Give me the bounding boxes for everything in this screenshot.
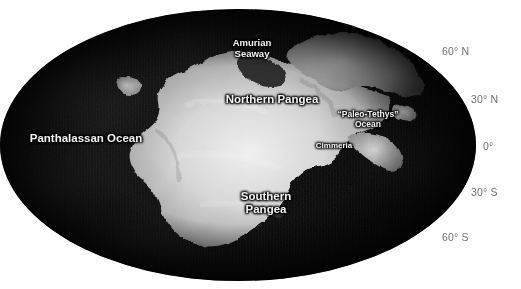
map-grain bbox=[0, 9, 476, 281]
globe-container bbox=[0, 9, 476, 281]
latitude-label-60-north: 60° N bbox=[442, 45, 469, 57]
latitude-label-30-south: 30° S bbox=[471, 186, 498, 198]
paleogeographic-map: Panthalassan Ocean Amurian Seaway Northe… bbox=[0, 0, 521, 289]
mollweide-globe bbox=[0, 9, 476, 281]
landmass-layer bbox=[0, 9, 476, 281]
latitude-label-30-north: 30° N bbox=[471, 93, 498, 105]
latitude-label-60-south: 60° S bbox=[442, 231, 469, 243]
latitude-label-equator: 0° bbox=[483, 140, 493, 152]
